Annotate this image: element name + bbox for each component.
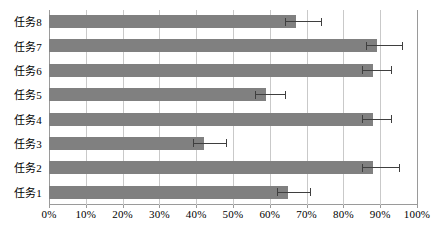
bar-row xyxy=(49,34,417,58)
error-bar-cap-high xyxy=(226,139,227,147)
bar xyxy=(49,39,377,52)
x-tick-label: 30% xyxy=(149,208,170,221)
bar-row xyxy=(49,59,417,83)
x-tick-label: 50% xyxy=(223,208,244,221)
bar xyxy=(49,64,373,77)
error-bar-cap-low xyxy=(285,18,286,26)
error-bar-line xyxy=(285,21,322,22)
error-bar-cap-low xyxy=(362,115,363,123)
error-bar-cap-low xyxy=(277,188,278,196)
error-bar-line xyxy=(277,192,310,193)
x-axis-tick-labels: 0%10%20%30%40%50%60%70%80%90%100% xyxy=(49,208,417,228)
error-bar-cap-high xyxy=(285,91,286,99)
error-bar-cap-high xyxy=(391,66,392,74)
error-bar-line xyxy=(362,70,391,71)
bar xyxy=(49,15,296,28)
x-tick-label: 60% xyxy=(259,208,280,221)
bar-row xyxy=(49,10,417,34)
y-axis-category-label: 任务2 xyxy=(14,162,42,174)
bar xyxy=(49,186,288,199)
x-tick-label: 80% xyxy=(333,208,354,221)
y-axis-category-label: 任务5 xyxy=(14,89,42,101)
x-tick-label: 20% xyxy=(112,208,133,221)
error-bar-line xyxy=(255,94,284,95)
error-bar-line xyxy=(193,143,226,144)
bar xyxy=(49,137,204,150)
gridline-100pct xyxy=(417,10,418,205)
x-tick-label: 40% xyxy=(186,208,207,221)
error-bar-cap-high xyxy=(310,188,311,196)
error-bar-cap-high xyxy=(391,115,392,123)
bar xyxy=(49,88,266,101)
bar-row xyxy=(49,83,417,107)
y-axis-category-label: 任务3 xyxy=(14,138,42,150)
error-bar-cap-high xyxy=(399,164,400,172)
error-bar-cap-low xyxy=(366,42,367,50)
error-bar-cap-low xyxy=(255,91,256,99)
error-bar-cap-low xyxy=(193,139,194,147)
plot-area xyxy=(49,10,417,205)
error-bar-cap-high xyxy=(402,42,403,50)
y-axis-category-label: 任务1 xyxy=(14,187,42,199)
error-bar-line xyxy=(362,167,399,168)
bar xyxy=(49,161,373,174)
y-axis-category-label: 任务4 xyxy=(14,114,42,126)
error-bar-cap-high xyxy=(321,18,322,26)
error-bar-cap-low xyxy=(362,66,363,74)
bar xyxy=(49,113,373,126)
y-axis-category-label: 任务6 xyxy=(14,65,42,77)
error-bar-line xyxy=(362,119,391,120)
x-tick-label: 90% xyxy=(370,208,391,221)
y-axis-category-label: 任务8 xyxy=(14,16,42,28)
bar-row xyxy=(49,181,417,205)
x-tick-label: 70% xyxy=(296,208,317,221)
x-tick-label: 100% xyxy=(404,208,430,221)
y-axis-category-label: 任务7 xyxy=(14,41,42,53)
bar-row xyxy=(49,132,417,156)
bar-row xyxy=(49,108,417,132)
bar-row xyxy=(49,156,417,180)
x-tick-label: 10% xyxy=(75,208,96,221)
y-axis-category-labels: 任务8任务7任务6任务5任务4任务3任务2任务1 xyxy=(0,10,45,205)
error-bar-cap-low xyxy=(362,164,363,172)
x-tick-label: 0% xyxy=(41,208,56,221)
error-bar-line xyxy=(366,45,403,46)
bar-chart: 任务8任务7任务6任务5任务4任务3任务2任务1 0%10%20%30%40%5… xyxy=(0,0,439,239)
